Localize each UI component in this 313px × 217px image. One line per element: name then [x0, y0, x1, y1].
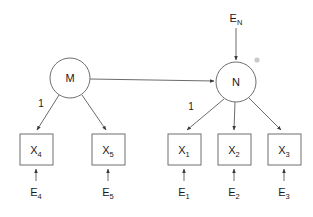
latent-node-m[interactable]: M: [50, 58, 90, 98]
error-label-en-sub: N: [237, 18, 242, 27]
observed-label-x3-sub: 3: [286, 150, 290, 159]
error-label-e5: E5: [102, 186, 114, 201]
error-label-e1-sub: 1: [186, 192, 190, 201]
error-label-e5-sub: 5: [110, 192, 114, 201]
edge-m-to-x5: [82, 95, 106, 130]
error-label-en-base: E: [230, 12, 237, 24]
error-label-e4: E4: [30, 186, 42, 201]
observed-node-x2[interactable]: X2: [218, 134, 251, 165]
observed-label-x5-sub: 5: [110, 150, 114, 159]
error-label-e1-base: E: [178, 186, 185, 198]
error-label-en: EN: [230, 12, 243, 27]
error-label-e3: E3: [278, 186, 290, 201]
latent-label-m: M: [65, 72, 74, 84]
error-label-e2-sub: 2: [236, 192, 240, 201]
error-label-e3-sub: 3: [286, 192, 290, 201]
observed-label-x2-sub: 2: [236, 150, 240, 159]
scan-speck-artifact: [254, 57, 259, 62]
error-label-e5-base: E: [102, 186, 109, 198]
observed-node-x4[interactable]: X4: [20, 134, 53, 165]
latent-label-n: N: [232, 76, 240, 88]
latent-node-n[interactable]: N: [216, 62, 256, 102]
observed-label-x4-sub: 4: [38, 150, 42, 159]
error-label-e4-base: E: [30, 186, 37, 198]
path-coefficient-m-x4: 1: [38, 98, 44, 109]
path-coefficient-n-x1: 1: [188, 101, 194, 112]
edge-n-to-x2: [234, 102, 235, 130]
diagram-canvas: M N X4 X5 X1 X2: [0, 0, 313, 217]
edge-m-to-n: [90, 79, 214, 81]
error-label-e4-sub: 4: [38, 192, 42, 201]
observed-node-x5[interactable]: X5: [92, 134, 125, 165]
sem-path-diagram: M N X4 X5 X1 X2: [0, 0, 313, 217]
error-label-e2: E2: [228, 186, 240, 201]
edge-n-to-x3: [249, 98, 281, 130]
error-label-e1: E1: [178, 186, 190, 201]
error-label-e3-base: E: [278, 186, 285, 198]
observed-label-x1-sub: 1: [186, 150, 190, 159]
observed-node-x3[interactable]: X3: [268, 134, 301, 165]
error-label-e2-base: E: [228, 186, 235, 198]
observed-node-x1[interactable]: X1: [168, 134, 201, 165]
